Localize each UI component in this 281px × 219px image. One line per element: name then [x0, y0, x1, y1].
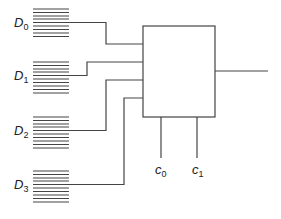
mux-box	[143, 26, 215, 117]
d3-label: D3	[14, 178, 28, 194]
c1-label: c1	[192, 163, 204, 179]
d2-label: D2	[14, 124, 28, 140]
c0-label: c0	[155, 163, 167, 179]
d2-wire	[69, 80, 143, 131]
d3-bus	[33, 171, 69, 202]
d0-label: D0	[14, 16, 28, 32]
d1-bus	[33, 62, 69, 93]
d0-wire	[69, 23, 143, 45]
d0-bus	[33, 9, 69, 37]
mux-diagram	[0, 0, 281, 219]
d2-bus	[33, 117, 69, 148]
d1-label: D1	[14, 69, 28, 85]
d1-wire	[69, 62, 143, 76]
